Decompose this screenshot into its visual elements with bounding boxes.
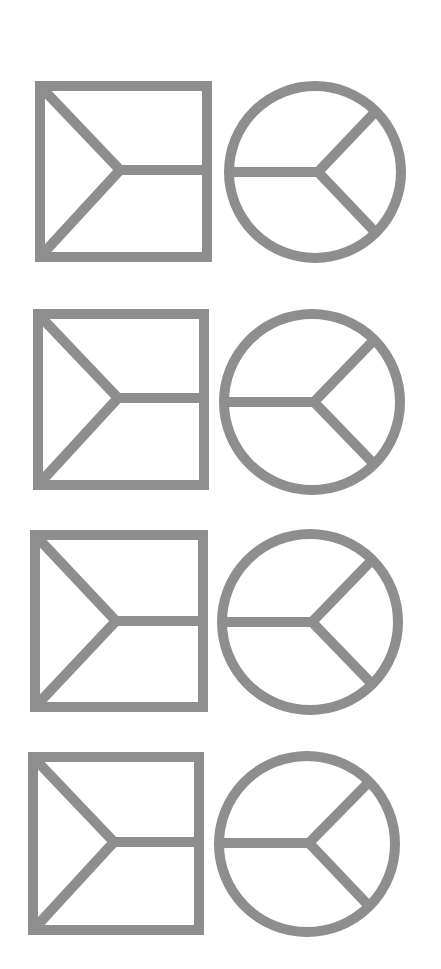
square-branch-lower [33, 842, 114, 930]
circle-y-symbol [222, 534, 398, 710]
circle-branch-upper-right [309, 782, 369, 843]
square-branch-upper [40, 86, 120, 170]
circle-branch-lower-right [309, 843, 369, 906]
circle-y-symbol [229, 86, 401, 258]
square-y-symbol [33, 757, 199, 930]
shape-row-4 [33, 756, 395, 932]
circle-branch-upper-right [318, 111, 376, 172]
shape-row-2 [38, 314, 400, 490]
diagram-canvas [0, 0, 441, 969]
shape-pairs [33, 86, 401, 932]
square-branch-upper [38, 314, 118, 398]
shape-row-1 [40, 86, 401, 258]
square-y-symbol [40, 86, 207, 257]
square-y-symbol [38, 314, 204, 485]
square-branch-lower [35, 621, 116, 707]
circle-branch-lower-right [314, 402, 374, 464]
square-y-symbol [35, 535, 203, 707]
square-branch-upper [33, 757, 114, 842]
shape-row-3 [35, 534, 398, 710]
square-branch-upper [35, 535, 116, 621]
circle-y-symbol [219, 756, 395, 932]
square-branch-lower [40, 170, 120, 257]
circle-branch-lower-right [312, 622, 372, 684]
circle-branch-upper-right [314, 340, 374, 402]
circle-branch-upper-right [312, 560, 372, 622]
circle-branch-lower-right [318, 172, 376, 233]
circle-y-symbol [224, 314, 400, 490]
square-branch-lower [38, 398, 118, 485]
